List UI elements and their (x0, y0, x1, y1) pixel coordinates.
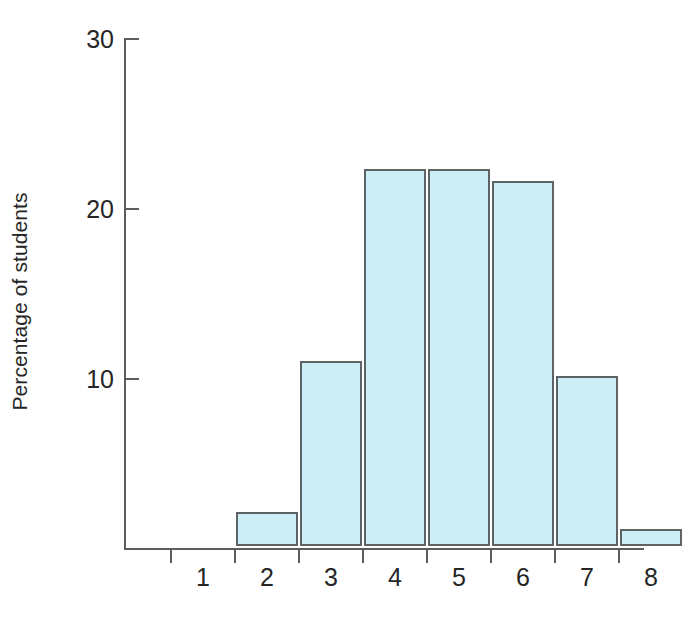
bar-category-8[interactable] (620, 529, 682, 546)
bar-category-6[interactable] (492, 181, 554, 546)
x-tick-3 (362, 550, 364, 563)
x-tick-2 (298, 550, 300, 563)
y-tick-label-30: 30 (86, 25, 114, 54)
bar-category-7[interactable] (556, 376, 618, 546)
x-axis-line (124, 548, 644, 550)
y-axis-title: Percentage of students (0, 0, 40, 617)
chart-figure: Percentage of students 30 20 10 (0, 0, 696, 617)
bar-category-3[interactable] (300, 361, 362, 546)
y-axis-line (124, 38, 126, 550)
x-tick-label-1: 1 (196, 563, 210, 592)
x-tick-label-4: 4 (388, 563, 402, 592)
x-tick-1 (234, 550, 236, 563)
bar-category-4[interactable] (364, 169, 426, 546)
plot-area: 30 20 10 1 2 3 4 5 6 7 8 (124, 38, 644, 548)
x-tick-label-5: 5 (452, 563, 466, 592)
x-tick-6 (554, 550, 556, 563)
bar-category-5[interactable] (428, 169, 490, 546)
x-tick-label-6: 6 (516, 563, 530, 592)
y-tick-30: 30 (126, 38, 139, 40)
x-tick-4 (426, 550, 428, 563)
x-tick-0 (170, 550, 172, 563)
x-tick-label-7: 7 (580, 563, 594, 592)
y-tick-20: 20 (126, 208, 139, 210)
x-tick-5 (490, 550, 492, 563)
bar-category-2[interactable] (236, 512, 298, 546)
x-tick-label-2: 2 (260, 563, 274, 592)
x-tick-7 (618, 550, 620, 563)
y-tick-label-20: 20 (86, 195, 114, 224)
y-tick-label-10: 10 (86, 365, 114, 394)
x-tick-label-8: 8 (644, 563, 658, 592)
x-tick-label-3: 3 (324, 563, 338, 592)
y-tick-10: 10 (126, 378, 139, 380)
